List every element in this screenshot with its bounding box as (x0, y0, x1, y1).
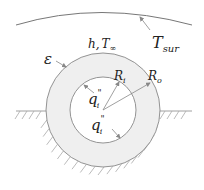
convection-label: h,T∞ (88, 37, 116, 53)
ground-hatch-right (158, 111, 192, 119)
diagram-canvas: Tsur h,T∞ ε Ri Ro q"i q"i (0, 0, 204, 190)
tsur-arrow (140, 17, 150, 30)
ground-hatch-left (15, 111, 48, 119)
epsilon-label: ε (44, 50, 52, 68)
surroundings-arc (16, 13, 192, 26)
ro-label: Ro (147, 69, 162, 85)
epsilon-arrow (56, 61, 66, 67)
tsur-label: Tsur (152, 33, 180, 54)
